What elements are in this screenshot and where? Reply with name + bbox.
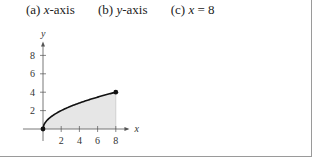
x-tick-label: 2 [59, 135, 64, 146]
y-axis-arrow-icon [41, 42, 45, 47]
y-tick-label: 6 [30, 68, 35, 79]
x-tick-label: 8 [113, 135, 118, 146]
x-axis-arrow-icon [124, 127, 129, 131]
x-tick-label: 4 [77, 135, 82, 146]
y-tick-label: 4 [30, 87, 35, 98]
y-tick-label: 8 [30, 50, 35, 61]
endpoint-dot [113, 90, 118, 95]
x-axis-label: x [133, 123, 139, 134]
graph: xy24682468 [0, 0, 323, 161]
shaded-region [43, 92, 116, 129]
y-axis-label: y [40, 28, 46, 39]
x-tick-label: 6 [95, 135, 100, 146]
y-tick-label: 2 [30, 105, 35, 116]
endpoint-dot [41, 127, 46, 132]
